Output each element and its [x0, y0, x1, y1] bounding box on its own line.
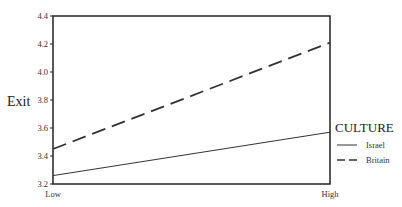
y-tick-label: 3.8	[37, 95, 48, 105]
y-tick-label: 3.4	[37, 151, 48, 161]
line-chart: 3.23.43.63.84.04.24.4 Exit Low High CULT…	[0, 0, 402, 207]
y-tick-label: 3.2	[37, 179, 48, 189]
x-tick-high: High	[322, 189, 340, 199]
y-tick-label: 4.2	[37, 39, 48, 49]
series-lines	[53, 43, 330, 176]
y-tick-label: 4.4	[37, 11, 48, 21]
legend-title: CULTURE	[335, 120, 394, 135]
plot-frame	[53, 16, 330, 184]
y-axis-ticks: 3.23.43.63.84.04.24.4	[37, 11, 53, 189]
legend-britain-label: Britain	[366, 155, 390, 165]
series-line-britain	[53, 43, 330, 149]
legend-israel-label: Israel	[366, 140, 386, 150]
y-axis-label: Exit	[7, 94, 30, 109]
x-tick-low: Low	[45, 189, 61, 199]
y-tick-label: 4.0	[37, 67, 48, 77]
series-line-israel	[53, 132, 330, 175]
y-tick-label: 3.6	[37, 123, 48, 133]
